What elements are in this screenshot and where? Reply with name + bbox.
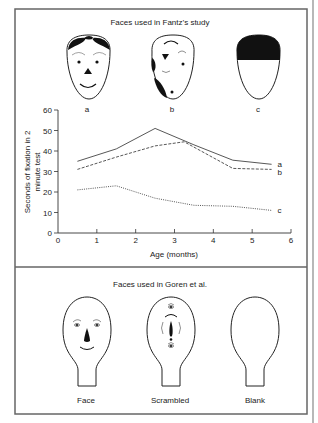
goren-scrambled-icon xyxy=(147,297,195,386)
goren-blank-label: Blank xyxy=(245,396,266,405)
fixation-chart: Seconds of fixation in 2 minute test 010… xyxy=(23,106,294,259)
y-tick-label: 40 xyxy=(43,147,52,156)
y-axis-label-line2: minute test xyxy=(33,152,42,192)
x-ticks: 0123456 xyxy=(56,229,294,245)
goren-scrambled-label: Scrambled xyxy=(151,396,189,405)
face-a-icon xyxy=(67,35,110,99)
goren-title: Faces used in Goren et al. xyxy=(113,280,207,289)
fantz-title: Faces used in Fantz’s study xyxy=(110,18,209,27)
series-label-c: c xyxy=(278,206,282,215)
series-label-b: b xyxy=(278,168,283,177)
y-axis-label-line1: Seconds of fixation in 2 xyxy=(23,130,32,213)
face-b-label: b xyxy=(170,105,175,114)
face-c-label: c xyxy=(256,105,260,114)
y-tick-label: 60 xyxy=(43,106,52,115)
face-a-label: a xyxy=(85,105,90,114)
series-line-b xyxy=(77,142,271,170)
x-tick-label: 4 xyxy=(211,236,216,245)
face-b-icon xyxy=(151,35,194,99)
y-tick-label: 20 xyxy=(43,188,52,197)
goren-panel: Faces used in Goren et al. Face xyxy=(63,280,279,405)
series-lines: abc xyxy=(77,128,282,215)
fantz-panel: Faces used in Fantz’s study a b xyxy=(67,18,280,114)
x-tick-label: 5 xyxy=(250,236,255,245)
y-tick-label: 30 xyxy=(43,168,52,177)
x-tick-label: 0 xyxy=(56,236,61,245)
y-tick-label: 50 xyxy=(43,127,52,136)
series-line-c xyxy=(77,186,271,211)
goren-face-label: Face xyxy=(77,396,95,405)
x-tick-label: 3 xyxy=(172,236,177,245)
x-tick-label: 2 xyxy=(133,236,138,245)
y-ticks: 0102030405060 xyxy=(43,106,58,238)
figure: Faces used in Fantz’s study a b xyxy=(0,0,318,423)
goren-face-icon xyxy=(63,297,111,386)
face-c-icon xyxy=(237,35,280,99)
x-tick-label: 1 xyxy=(95,236,100,245)
y-tick-label: 10 xyxy=(43,209,52,218)
x-tick-label: 6 xyxy=(289,236,294,245)
x-axis-label: Age (months) xyxy=(150,250,198,259)
y-tick-label: 0 xyxy=(48,229,53,238)
series-line-a xyxy=(77,128,271,164)
goren-blank-icon xyxy=(231,297,279,386)
